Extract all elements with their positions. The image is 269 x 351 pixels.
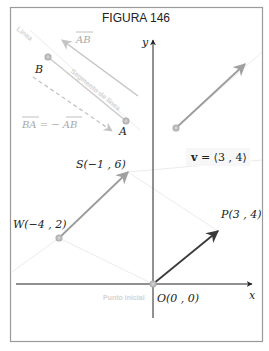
vector-ws: [59, 172, 128, 238]
x-axis-label: x: [249, 289, 256, 302]
faint-line-s-p: [128, 172, 218, 231]
y-axis-label: y: [141, 36, 149, 49]
origin-label: O(0 , 0): [157, 292, 199, 305]
segment-label: Segmento de línea: [69, 67, 122, 112]
ab-label: AB: [75, 34, 91, 45]
faint-line-w-origin: [59, 238, 153, 284]
vector-label-rest: = ⟨3 , 4⟩: [197, 151, 246, 164]
vector-upper-right-tail-dot: [173, 125, 180, 132]
line-label: Línea: [15, 25, 34, 42]
faint-line-w-down: [12, 238, 59, 272]
point-p-label: P(3 , 4): [220, 208, 261, 221]
origin-dot: [150, 281, 157, 288]
line-segment-ab: [48, 57, 126, 121]
point-b-dot: [45, 54, 52, 61]
point-w-label: W(−4 , 2): [13, 218, 67, 231]
point-s-label: S(−1 , 6): [76, 158, 126, 171]
point-a-dot: [123, 118, 130, 125]
point-w-dot: [56, 235, 63, 242]
vector-op: [153, 231, 218, 284]
figure-146: FIGURA 146 v = ⟨3 , 4⟩ x y B A AB BA = −…: [0, 0, 269, 351]
ab-label-group: AB: [75, 32, 93, 45]
ba-eq-label: BA = − AB: [21, 119, 77, 130]
figure-title: FIGURA 146: [102, 11, 170, 25]
ba-eq-label-group: BA = − AB: [21, 117, 82, 130]
initial-point-label: Punto inicial: [103, 294, 145, 301]
vector-label: v = ⟨3 , 4⟩: [190, 151, 247, 164]
point-b-label: B: [34, 63, 43, 76]
vector-upper-right: [176, 64, 245, 128]
point-a-label: A: [118, 125, 127, 138]
